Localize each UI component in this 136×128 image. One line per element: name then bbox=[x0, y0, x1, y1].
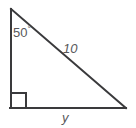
degree-symbol-icon: ° bbox=[27, 24, 31, 34]
angle-value: 50 bbox=[13, 25, 27, 40]
triangle-drawing bbox=[0, 0, 136, 128]
right-triangle-figure: 50° 10 y bbox=[0, 0, 136, 128]
base-label: y bbox=[62, 111, 69, 124]
hypotenuse-label: 10 bbox=[63, 42, 77, 55]
angle-label: 50° bbox=[13, 25, 31, 39]
right-angle-marker-icon bbox=[11, 93, 26, 108]
